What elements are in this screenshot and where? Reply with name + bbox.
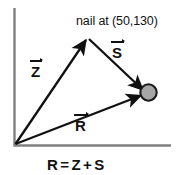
vector-s-label: S (112, 45, 122, 60)
ball-marker (140, 84, 156, 100)
vector-equation: R=Z+S (47, 157, 105, 172)
equation-term2: S (94, 156, 104, 173)
vector-r-label: R (75, 118, 86, 133)
equation-plus: + (81, 156, 94, 173)
vector-s-letter: S (112, 44, 122, 61)
vector-r-letter: R (75, 117, 86, 134)
equation-equals: = (58, 156, 71, 173)
vector-z-letter: Z (31, 63, 40, 80)
nail-coordinate-label: nail at (50,130) (76, 15, 158, 28)
vector-z-label: Z (31, 64, 40, 79)
equation-lhs: R (47, 156, 58, 173)
equation-term1: Z (71, 156, 81, 173)
vector-diagram-figure: nail at (50,130) Z S R R=Z+S (0, 0, 178, 175)
